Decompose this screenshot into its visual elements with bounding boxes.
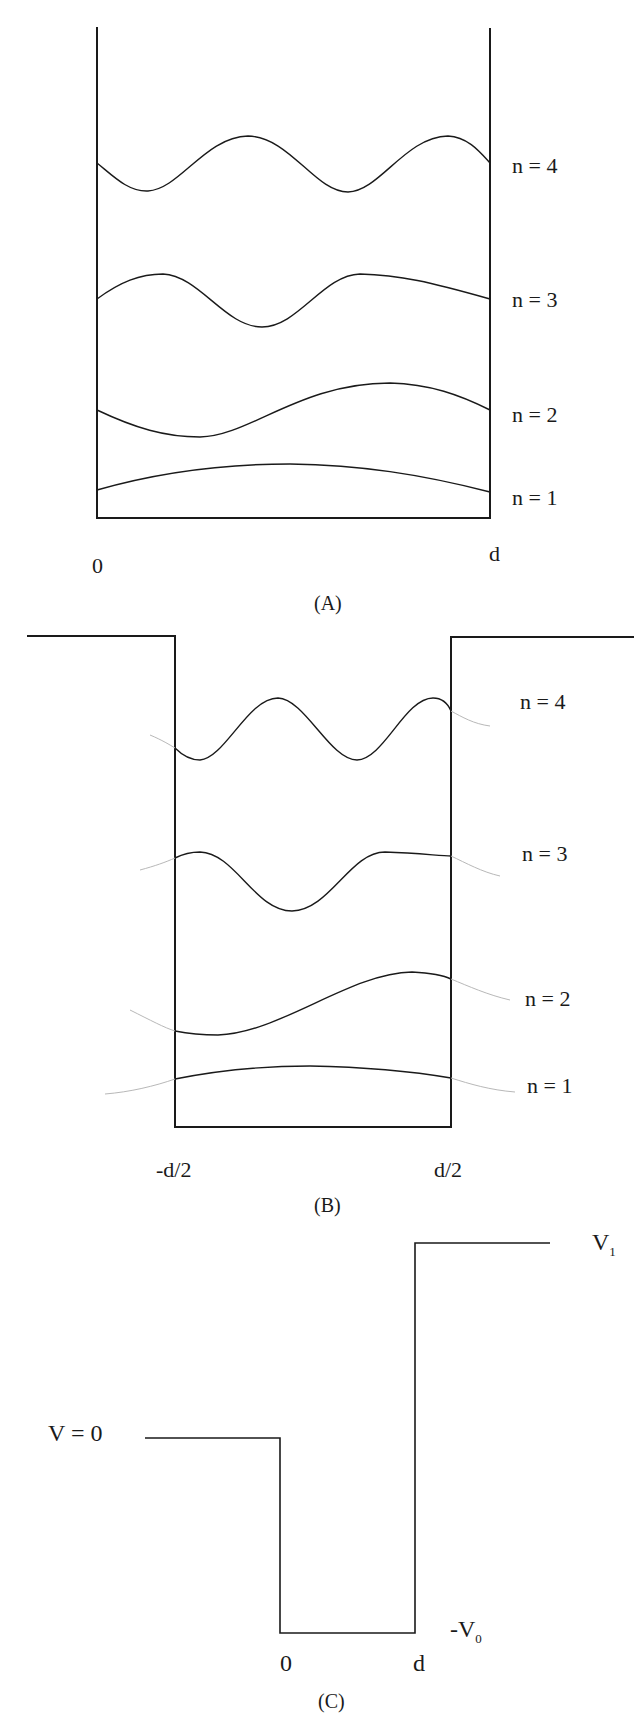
panel-c-label-v-neg: -V0 <box>450 1617 482 1645</box>
v-neg-sub: 0 <box>475 1631 482 1646</box>
panel-c-caption: (C) <box>318 1691 345 1711</box>
v-one-main: V <box>592 1229 609 1255</box>
v-one-sub: 1 <box>609 1244 616 1259</box>
panel-c-x-label-right: d <box>413 1651 425 1675</box>
panel-c-x-label-left: 0 <box>280 1651 292 1675</box>
panel-c-label-v-zero: V = 0 <box>48 1421 102 1445</box>
panel-c-label-v-one: V1 <box>592 1230 616 1258</box>
panel-c-diagram <box>0 0 641 1725</box>
v-neg-main: -V <box>450 1616 475 1642</box>
panel-c-potential-outline <box>145 1243 550 1633</box>
